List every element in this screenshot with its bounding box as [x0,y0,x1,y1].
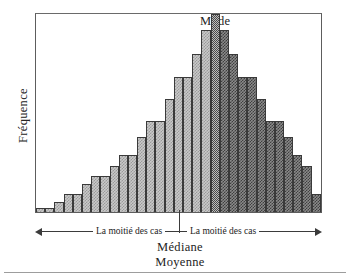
center-tick-icon [179,210,180,233]
histogram-bar [312,194,321,212]
histogram-bar [36,208,45,212]
histogram-bar [275,121,284,212]
histogram-bar [64,194,73,212]
histogram-bar [128,155,137,212]
histogram-bar [82,184,91,212]
histogram-bar [174,77,183,212]
histogram-bar [119,155,128,212]
histogram-bar [45,208,54,212]
mean-label: Moyenne [104,255,256,270]
right-half-label: La moitié des cas [187,224,259,239]
median-label: Médiane [104,240,256,255]
left-half-label: La moitié des cas [93,224,165,239]
histogram-bars [36,14,321,212]
histogram-bar [211,14,220,212]
histogram-bar [284,137,293,212]
half-of-cases-axis: La moitié des cas La moitié des cas [35,224,322,240]
histogram-bar [192,54,201,212]
histogram-bar [183,77,192,212]
histogram-bar [137,137,146,212]
histogram-bar [73,194,82,212]
histogram-bar [266,121,275,212]
y-axis-label: Fréquence [16,61,31,171]
histogram-bar [165,99,174,212]
histogram-bar [91,176,100,212]
histogram-bar [54,202,63,212]
histogram-bar [146,121,155,212]
histogram-bar [100,176,109,212]
histogram-bar [302,166,311,212]
histogram-bar [293,155,302,212]
histogram-bar [220,30,229,212]
histogram-bar [257,99,266,212]
histogram-bar [247,77,256,212]
arrow-right-icon [315,228,322,236]
arrow-left-icon [35,228,42,236]
histogram-bar [155,121,164,212]
figure-normal-distribution: Fréquence Mode La moitié des cas La moit… [0,0,350,278]
histogram-bar [238,77,247,212]
page-rule [4,272,346,273]
histogram-bar [229,54,238,212]
histogram-bar [201,30,210,212]
histogram-bar [110,166,119,212]
center-captions: Médiane Moyenne [104,240,256,270]
